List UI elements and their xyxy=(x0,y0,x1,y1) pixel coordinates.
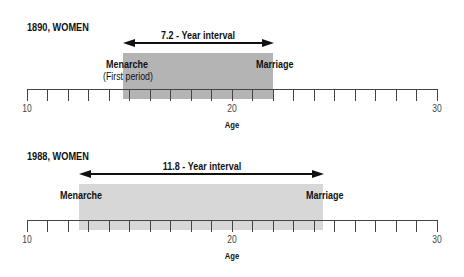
interval-arrow xyxy=(86,173,317,175)
tick-label-20: 20 xyxy=(227,103,236,114)
interval-label: 11.8 - Year interval xyxy=(160,161,244,172)
axis-label: Age xyxy=(225,120,239,130)
tick-label-10: 10 xyxy=(22,103,31,114)
tick-label-30: 30 xyxy=(432,234,441,245)
timeline-1890: 1890, WOMEN 7.2 - Year interval Menarche… xyxy=(0,0,464,140)
tick-label-10: 10 xyxy=(22,234,31,245)
tick-label-30: 30 xyxy=(432,103,441,114)
interval-arrow xyxy=(130,42,266,44)
marriage-label: Marriage xyxy=(256,59,294,70)
arrow-right-icon xyxy=(312,170,324,178)
interval-label: 7.2 - Year interval xyxy=(158,30,237,41)
marriage-label: Marriage xyxy=(306,190,344,201)
arrow-right-icon xyxy=(262,39,274,47)
axis-label: Age xyxy=(225,251,239,261)
panel-title: 1890, WOMEN xyxy=(27,22,89,33)
tick-label-20: 20 xyxy=(227,234,236,245)
menarche-label: Menarche xyxy=(106,59,148,70)
shaded-interval xyxy=(79,184,323,230)
panel-title: 1988, WOMEN xyxy=(27,151,89,162)
timeline-1988: 1988, WOMEN 11.8 - Year interval Menarch… xyxy=(0,140,464,277)
menarche-label: Menarche xyxy=(60,190,102,201)
menarche-sublabel: (First period) xyxy=(103,71,153,82)
